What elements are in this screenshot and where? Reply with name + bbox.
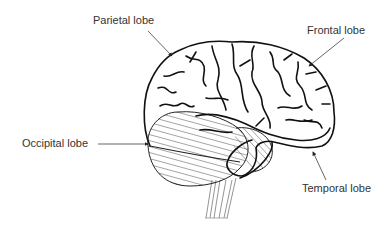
frontal-arrow [309,38,344,66]
cerebrum [144,41,334,178]
label-temporal-lobe: Temporal lobe [302,182,371,194]
label-frontal-lobe: Frontal lobe [307,24,365,36]
temporal-arrow [313,152,326,180]
label-parietal-lobe: Parietal lobe [93,14,154,26]
parietal-arrow [148,31,172,56]
label-occipital-lobe: Occipital lobe [22,137,88,149]
